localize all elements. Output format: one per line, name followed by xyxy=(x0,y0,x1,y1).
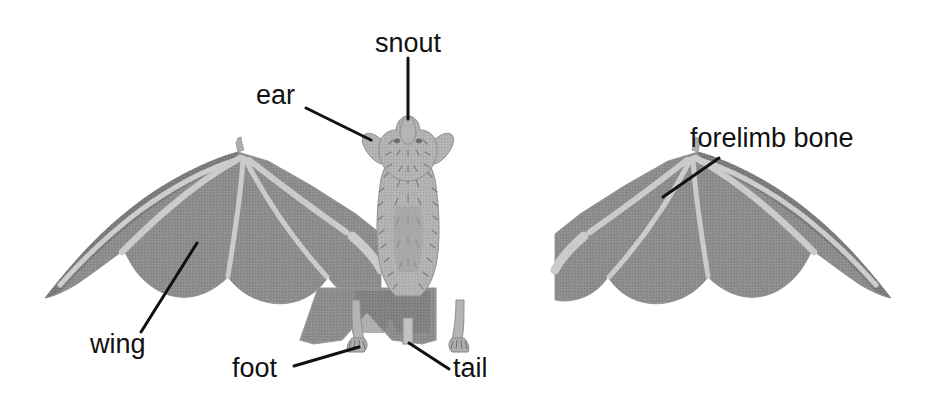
tail xyxy=(403,318,413,344)
right-eye xyxy=(416,139,422,144)
label-tail: tail xyxy=(453,355,488,382)
bat-head xyxy=(362,116,453,181)
left-thumb-claw xyxy=(236,137,244,152)
right-leg xyxy=(452,300,464,340)
label-forelimb-bone: forelimb bone xyxy=(690,125,854,152)
label-foot: foot xyxy=(232,355,277,382)
label-wing: wing xyxy=(90,331,146,358)
right-wing xyxy=(555,137,891,304)
leader-tail xyxy=(409,343,449,369)
bat-anatomy-figure: snout ear forelimb bone wing foot tail xyxy=(0,0,936,414)
label-snout: snout xyxy=(375,30,441,57)
leader-foot xyxy=(294,347,359,366)
left-eye xyxy=(394,139,400,144)
left-wing xyxy=(45,137,381,304)
chest-shading xyxy=(393,206,423,272)
leader-ear xyxy=(306,108,371,140)
label-ear: ear xyxy=(256,82,295,109)
